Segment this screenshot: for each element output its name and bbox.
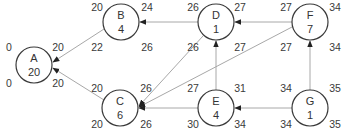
node-f-id: F: [307, 9, 314, 21]
node-g-id: G: [306, 95, 315, 107]
node-g-es: 34: [280, 82, 292, 94]
node-a-lf: 20: [52, 77, 64, 89]
node-c-es: 20: [91, 82, 103, 94]
node-d-lf: 27: [234, 41, 246, 53]
node-c-ef: 26: [140, 82, 152, 94]
node-e-es: 27: [187, 82, 199, 94]
node-c-id: C: [116, 95, 124, 107]
node-d-ef: 27: [234, 1, 246, 13]
node-a-id: A: [30, 52, 38, 64]
node-f-es: 27: [280, 1, 292, 13]
node-b-duration: 4: [118, 23, 124, 35]
node-e-ls: 30: [187, 118, 199, 130]
node-d-id: D: [212, 9, 220, 21]
node-e: E 4 27 31 30 34: [187, 82, 246, 130]
node-e-duration: 4: [213, 109, 219, 121]
node-d: D 1 26 27 26 27: [187, 1, 246, 53]
node-e-id: E: [212, 95, 219, 107]
node-b-id: B: [117, 9, 124, 21]
node-b: B 4 20 24 22 26: [91, 1, 153, 53]
node-c: C 6 20 26 20 26: [91, 82, 152, 130]
node-f-ef: 34: [329, 1, 341, 13]
node-d-ls: 26: [187, 41, 199, 53]
node-e-lf: 34: [234, 118, 246, 130]
node-a: A 20 0 20 0 20: [6, 41, 64, 89]
node-f-ls: 27: [280, 41, 292, 53]
node-a-duration: 20: [28, 66, 40, 78]
node-c-lf: 26: [140, 118, 152, 130]
node-f: F 7 27 34 27 34: [280, 1, 341, 53]
node-b-lf: 26: [141, 41, 153, 53]
node-d-es: 26: [187, 1, 199, 13]
node-b-ls: 22: [91, 41, 103, 53]
node-g-lf: 35: [329, 118, 341, 130]
node-g-ef: 35: [329, 82, 341, 94]
node-d-duration: 1: [213, 23, 219, 35]
node-c-ls: 20: [91, 118, 103, 130]
node-g-duration: 1: [307, 109, 313, 121]
node-a-ef: 20: [52, 41, 64, 53]
edges: [53, 22, 310, 108]
node-a-ls: 0: [6, 77, 12, 89]
node-c-duration: 6: [117, 109, 123, 121]
node-b-ef: 24: [141, 1, 153, 13]
node-f-lf: 34: [329, 41, 341, 53]
network-diagram: A 20 0 20 0 20 B 4 20 24 22 26 C 6 20 26…: [0, 0, 351, 133]
node-e-ef: 31: [234, 82, 246, 94]
node-g-ls: 34: [280, 118, 292, 130]
node-f-duration: 7: [307, 23, 313, 35]
node-g: G 1 34 35 34 35: [280, 82, 341, 130]
node-a-es: 0: [6, 41, 12, 53]
node-b-es: 20: [91, 1, 103, 13]
